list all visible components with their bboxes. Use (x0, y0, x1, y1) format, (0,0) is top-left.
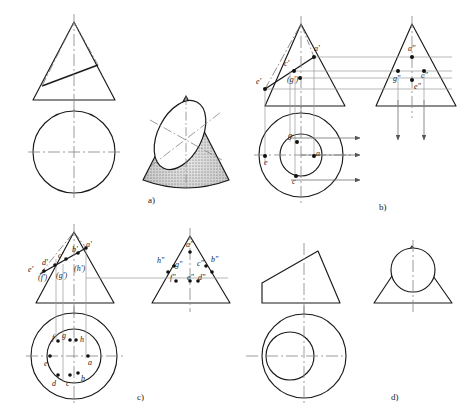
panel-label-b: b) (379, 203, 387, 212)
label-a-prime-b: a' (314, 45, 320, 53)
label-d-top-c: d (52, 380, 56, 388)
point-g-top-c-marker (68, 338, 72, 342)
point-markers (42, 55, 426, 377)
label-c-dbl-b: c" (421, 72, 428, 80)
label-a-dbl-b: a" (408, 45, 415, 53)
point-f-top-c-marker (56, 339, 60, 343)
panel-label-a: a) (148, 196, 155, 205)
panel-c-center-lines-top (26, 306, 124, 406)
label-d-prime-c: d' (42, 259, 48, 267)
panel-a-center-lines-top (28, 106, 120, 200)
point-a-dbl-c-marker (188, 250, 192, 254)
label-e-prime-b: e' (256, 78, 261, 86)
label-a-top-b: a (316, 150, 320, 158)
technical-drawing-sheet: a' c' e' (g') a" g" c" e" g e a c a' b' … (0, 0, 470, 420)
point-c-dbl-c-marker (204, 264, 208, 268)
point-g-top-marker (295, 140, 299, 144)
panel-label-c: c) (137, 393, 144, 402)
label-g-prime-b: (g') (287, 76, 298, 84)
label-h-dbl-c: h" (157, 257, 164, 265)
panel-b-top-projection-arrows (290, 138, 360, 180)
panel-d-front-view (262, 251, 340, 303)
label-e-top-c: e (44, 360, 48, 368)
label-g-top-b: g (288, 132, 292, 140)
point-h-top-c-marker (74, 338, 78, 342)
point-b-dbl-c-marker (210, 270, 214, 274)
panel-d-center-lines-top (246, 306, 344, 406)
label-e-dbl-c: e" (187, 274, 194, 282)
point-e-prime-marker (263, 87, 267, 91)
label-g-top-c: g (62, 332, 66, 340)
point-c-prime-c-marker (64, 257, 68, 261)
label-h-prime-c: (h') (74, 265, 85, 273)
label-h-top-c: h (80, 336, 84, 344)
label-b-prime-c: b' (72, 246, 78, 254)
label-f-prime-c: (f') (38, 274, 47, 282)
label-g-dbl-b: g" (393, 75, 400, 83)
point-d-top-c-marker (56, 373, 60, 377)
panel-b-center-lines-top (254, 106, 352, 205)
label-d-dbl-c: d" (198, 274, 205, 282)
point-e-top-c-marker (48, 354, 52, 358)
point-g-dbl-marker (396, 69, 400, 73)
panel-label-d: d) (391, 393, 399, 402)
panel-b-side-view (376, 24, 456, 106)
point-a-dbl-marker (410, 55, 414, 59)
label-g-dbl-c: g" (175, 261, 182, 269)
label-e-prime-c: e' (28, 266, 33, 274)
point-b-top-c-marker (76, 371, 80, 375)
label-e-dbl-b: e" (414, 83, 421, 91)
point-c-prime-marker (292, 69, 296, 73)
label-a-top-c: a (88, 359, 92, 367)
label-g-prime-c: (g') (56, 272, 67, 280)
label-c-prime-c: c' (58, 252, 63, 260)
point-d-prime-c-marker (53, 263, 57, 267)
label-a-prime-c: a' (86, 241, 92, 249)
point-a-prime-marker (312, 55, 316, 59)
label-c-top-c: c (66, 380, 70, 388)
panel-b-front-view (265, 24, 345, 106)
panel-d-side-view (374, 246, 452, 303)
point-g-prime-marker (298, 76, 302, 80)
label-b-dbl-c: b" (211, 256, 218, 264)
label-c-dbl-c: c" (197, 260, 204, 268)
drawing-canvas (0, 0, 470, 420)
label-f-top-c: f (52, 334, 54, 342)
label-c-top-b: c (292, 178, 296, 186)
label-b-top-c: b (81, 375, 85, 383)
panel-a-pictorial (140, 92, 235, 202)
label-c-prime-b: c' (284, 60, 289, 68)
label-e-top-b: e (264, 159, 268, 167)
point-c-top-c-marker (68, 373, 72, 377)
label-a-dbl-c: a" (186, 241, 193, 249)
label-f-dbl-c: f" (170, 274, 176, 282)
